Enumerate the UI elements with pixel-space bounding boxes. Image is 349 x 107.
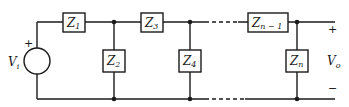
- series-impedance-z3: Z3: [141, 13, 163, 32]
- output-label: Vo: [327, 54, 341, 70]
- shunt-impedance-z4: Z4: [179, 50, 201, 72]
- ladder-network-diagram: + Vi Z1 Z3 Zn − 1 Z2 Z4 Zn + Vo −: [0, 0, 349, 107]
- shunt-impedance-z2: Z2: [103, 50, 125, 72]
- junction-dot: [295, 20, 300, 25]
- voltage-source: + Vi: [8, 37, 50, 74]
- output-minus-sign: −: [328, 82, 337, 95]
- junction-dot: [112, 97, 117, 102]
- output-voltage: + Vo −: [327, 23, 341, 95]
- junction-dot: [112, 20, 117, 25]
- junction-dot: [188, 20, 193, 25]
- series-impedance-zn-1: Zn − 1: [248, 13, 288, 32]
- shunt-impedance-zn: Zn: [286, 50, 308, 72]
- junction-dot: [295, 97, 300, 102]
- series-impedance-z1: Z1: [63, 13, 85, 32]
- source-label: Vi: [8, 55, 20, 71]
- junction-dot: [188, 97, 193, 102]
- output-plus-sign: +: [328, 23, 337, 36]
- source-circle-icon: [24, 48, 50, 74]
- source-plus-sign: +: [24, 37, 33, 50]
